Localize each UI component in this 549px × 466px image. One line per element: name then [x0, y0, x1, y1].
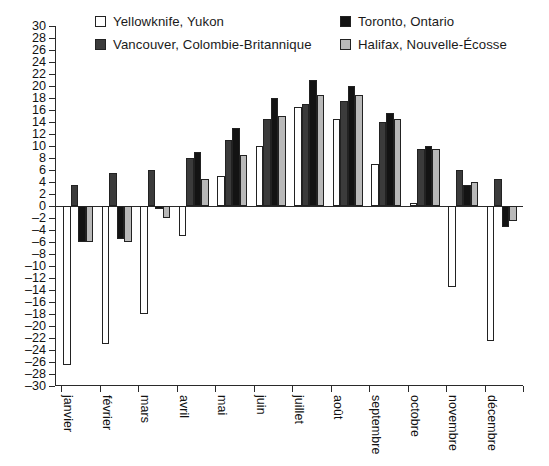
bar [417, 149, 424, 206]
bar [502, 206, 509, 227]
x-tick-mark [523, 386, 524, 392]
bar-group [102, 26, 132, 386]
y-tick-label: –30 [25, 379, 46, 393]
bar [194, 152, 201, 206]
x-axis-label: janvier [61, 395, 75, 432]
y-tick-mark [49, 206, 55, 207]
x-tick-mark [215, 386, 216, 392]
y-tick-mark [49, 110, 55, 111]
bar [456, 170, 463, 206]
y-tick-mark [49, 38, 55, 39]
y-tick-mark [49, 266, 55, 267]
bar-group [217, 26, 247, 386]
bar-group [294, 26, 324, 386]
x-axis-label: février [100, 395, 114, 430]
x-tick-mark [408, 386, 409, 392]
bar [348, 86, 355, 206]
bar [394, 119, 401, 206]
y-tick-mark [49, 182, 55, 183]
bar [179, 206, 186, 236]
x-axis-label: août [331, 395, 345, 420]
y-tick-mark [49, 254, 55, 255]
bar [155, 206, 162, 209]
y-tick-mark [49, 290, 55, 291]
bar [117, 206, 124, 239]
bar [294, 107, 301, 206]
y-tick-mark [49, 242, 55, 243]
y-tick-mark [49, 98, 55, 99]
x-axis-label: septembre [369, 395, 383, 454]
x-axis-label: novembre [446, 395, 460, 451]
bar [256, 146, 263, 206]
y-tick-mark [49, 230, 55, 231]
y-tick-mark [49, 194, 55, 195]
bar-group [63, 26, 93, 386]
bar [432, 149, 439, 206]
bar [410, 203, 417, 206]
y-tick-mark [49, 218, 55, 219]
bar [109, 173, 116, 206]
bar [148, 170, 155, 206]
x-tick-mark [177, 386, 178, 392]
y-tick-mark [49, 338, 55, 339]
x-tick-mark [369, 386, 370, 392]
bar [386, 113, 393, 206]
x-axis-label: juin [254, 395, 268, 415]
bar-chart: Yellowknife, Yukon Vancouver, Colombie-B… [0, 0, 549, 466]
bar [509, 206, 516, 221]
bar [124, 206, 131, 242]
y-tick-mark [49, 386, 55, 387]
bar-group [179, 26, 209, 386]
y-tick-mark [49, 374, 55, 375]
bar [78, 206, 85, 242]
y-tick-mark [49, 302, 55, 303]
x-tick-mark [138, 386, 139, 392]
y-tick-mark [49, 158, 55, 159]
y-tick-mark [49, 362, 55, 363]
x-axis-label: avril [177, 395, 191, 418]
x-tick-mark [446, 386, 447, 392]
bar [232, 128, 239, 206]
bar [448, 206, 455, 287]
y-tick-mark [49, 314, 55, 315]
y-tick-mark [49, 326, 55, 327]
x-tick-mark [61, 386, 62, 392]
y-tick-mark [49, 26, 55, 27]
y-tick-mark [49, 50, 55, 51]
x-tick-mark [100, 386, 101, 392]
bar [240, 155, 247, 206]
bar-group [256, 26, 286, 386]
bar [340, 101, 347, 206]
bar-group [410, 26, 440, 386]
plot-area: 302826242220181614121086420–2–4–6–8–10–1… [55, 26, 523, 386]
x-tick-mark [292, 386, 293, 392]
bar [86, 206, 93, 242]
x-tick-mark [331, 386, 332, 392]
x-axis-label: octobre [408, 395, 422, 437]
bar [333, 119, 340, 206]
bar-group [448, 26, 478, 386]
x-axis-label: mars [138, 395, 152, 423]
bar [271, 98, 278, 206]
bar [317, 95, 324, 206]
bar [225, 140, 232, 206]
bar [355, 95, 362, 206]
y-tick-mark [49, 146, 55, 147]
bar [201, 179, 208, 206]
bar [494, 179, 501, 206]
bar [379, 122, 386, 206]
y-tick-mark [49, 122, 55, 123]
bar-group [371, 26, 401, 386]
bar [309, 80, 316, 206]
bar [487, 206, 494, 341]
y-tick-mark [49, 86, 55, 87]
bar [186, 158, 193, 206]
y-tick-mark [49, 170, 55, 171]
x-axis-label: décembre [485, 395, 499, 451]
x-axis-label: mai [215, 395, 229, 415]
bar [425, 146, 432, 206]
bar [163, 206, 170, 218]
bar [217, 176, 224, 206]
y-tick-mark [49, 350, 55, 351]
bar [278, 116, 285, 206]
